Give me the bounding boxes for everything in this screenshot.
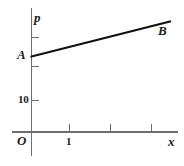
point-a-label: A [17, 48, 26, 61]
line-chart-figure: p x O A B 10 1 [0, 0, 184, 166]
origin-label: O [17, 134, 26, 147]
x-tick-label-1: 1 [66, 136, 71, 147]
chart-canvas [0, 0, 184, 166]
point-b-label: B [158, 24, 167, 37]
y-tick-label-10: 10 [18, 94, 28, 105]
x-axis-label: x [168, 135, 175, 148]
data-line-ab [32, 22, 171, 57]
y-axis-label: p [34, 11, 41, 24]
